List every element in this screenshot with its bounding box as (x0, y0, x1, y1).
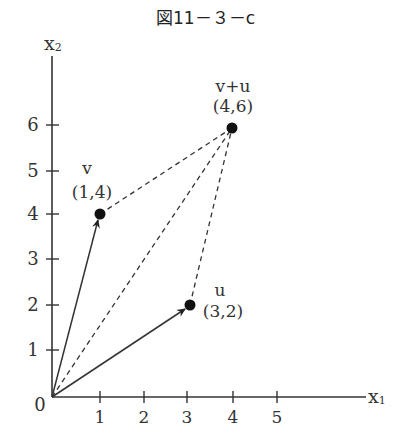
point-u-name: u (215, 280, 226, 300)
point-v-plus-u (227, 123, 238, 134)
point-v-name: v (81, 158, 92, 178)
x-axis-label: x1 (368, 385, 386, 407)
dashed-lines (52, 128, 232, 397)
y-tick-label: 3 (27, 248, 38, 269)
point-v-coord: (1,4) (72, 182, 112, 202)
x-tick-label: 3 (182, 407, 193, 427)
y-tick-label: 1 (27, 339, 38, 360)
x-tick-label: 4 (228, 407, 239, 427)
x-tick-label: 2 (139, 407, 150, 427)
point-u-coord: (3,2) (203, 301, 243, 321)
x-tick-label: 5 (272, 407, 283, 427)
y-tick-label: 2 (27, 294, 38, 315)
y-tick-label: 6 (27, 114, 38, 135)
point-u (185, 300, 196, 311)
point-vu-name: v+u (215, 76, 251, 96)
x-tick-label: 1 (95, 407, 106, 427)
point-v (95, 209, 106, 220)
y-tick-label: 5 (27, 160, 38, 181)
y-tick-label: 4 (27, 203, 38, 224)
origin-label: 0 (34, 394, 45, 415)
point-vu-coord: (4,6) (213, 96, 253, 116)
vector-diagram: 1 2 3 4 5 1 2 3 4 5 6 0 x2 x1 v (1,4) u … (0, 0, 411, 432)
y-axis-label: x2 (44, 32, 62, 54)
